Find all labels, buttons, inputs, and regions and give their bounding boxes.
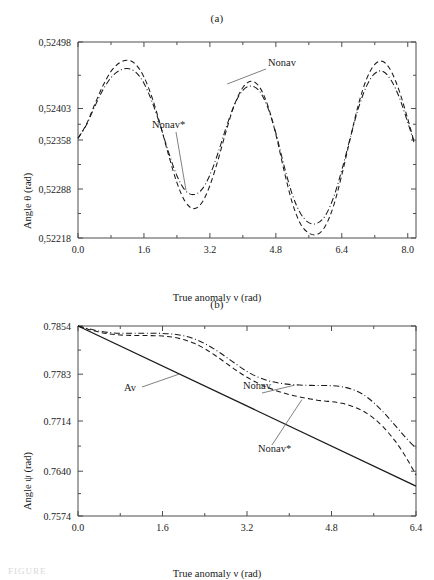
annotation-label-nonav-star: Nonav* [258, 443, 291, 454]
panel-a-annotations: NonavNonav* [152, 57, 297, 190]
series-nonav-star [78, 69, 414, 224]
y-tick-label: 0,52498 [39, 37, 72, 48]
annotation-leader-line [176, 132, 186, 190]
panel-b-x-axis-title: True anomaly ν (rad) [0, 568, 434, 579]
x-tick-label: 0.0 [72, 244, 85, 255]
annotation-label-nonav-star: Nonav* [152, 119, 185, 130]
panel-b-annotations: AvNonavNonav* [124, 374, 302, 454]
panel-a: (a) Angle θ (rad) 0,522180,522880,523580… [0, 0, 434, 290]
annotation-leader-line [142, 374, 179, 387]
annotation-label-nonav: Nonav [243, 380, 272, 391]
y-tick-label: 0,52218 [39, 233, 72, 244]
panel-a-plot-area: Angle θ (rad) 0,522180,522880,523580,524… [0, 24, 434, 274]
figure-page: (a) Angle θ (rad) 0,522180,522880,523580… [0, 0, 434, 580]
panel-b-series [78, 326, 416, 486]
y-tick-label: 0.7574 [44, 511, 72, 522]
panel-b-label: (b) [0, 290, 434, 310]
x-tick-label: 6.4 [336, 244, 349, 255]
panel-b: (b) Angle ψ (rad) 0.75740.76400.77140.77… [0, 290, 434, 580]
annotation-label-av: Av [124, 382, 137, 393]
figure-caption-fragment: FIGURE [8, 566, 47, 576]
x-tick-label: 1.6 [156, 522, 169, 533]
panel-b-chart: 0.75740.76400.77140.77830.78540.01.63.24… [0, 310, 434, 550]
panel-a-axes [78, 42, 416, 238]
panel-a-series [78, 60, 414, 235]
panel-b-axes [78, 326, 416, 516]
series-nonav-star [78, 326, 416, 475]
series-nonav [78, 60, 414, 235]
annotation-label-nonav: Nonav [268, 57, 297, 68]
x-tick-label: 6.4 [410, 522, 423, 533]
x-tick-label: 0.0 [72, 522, 85, 533]
x-tick-label: 4.8 [270, 244, 283, 255]
y-tick-label: 0.7783 [44, 369, 72, 380]
panel-b-plot-area: Angle ψ (rad) 0.75740.76400.77140.77830.… [0, 310, 434, 550]
y-tick-label: 0.7714 [44, 416, 72, 427]
y-tick-label: 0.7854 [44, 321, 72, 332]
x-tick-label: 3.2 [204, 244, 217, 255]
y-tick-label: 0.7640 [44, 466, 72, 477]
y-tick-label: 0,52288 [39, 184, 72, 195]
y-tick-label: 0,52358 [39, 135, 72, 146]
panel-a-label: (a) [0, 0, 434, 24]
series-av [78, 326, 416, 486]
x-tick-label: 8.0 [402, 244, 415, 255]
x-tick-label: 1.6 [138, 244, 151, 255]
panel-a-ticks: 0,522180,522880,523580,524030,524980.01.… [39, 37, 417, 255]
annotation-leader-line [272, 400, 302, 445]
x-tick-label: 3.2 [241, 522, 254, 533]
x-tick-label: 4.8 [325, 522, 338, 533]
y-tick-label: 0,52403 [39, 103, 72, 114]
annotation-leader-line [227, 69, 266, 84]
panel-a-y-axis-title: Angle θ (rad) [22, 173, 33, 229]
panel-b-y-axis-title: Angle ψ (rad) [22, 452, 33, 510]
panel-b-ticks: 0.75740.76400.77140.77830.78540.01.63.24… [44, 321, 423, 533]
panel-a-chart: 0,522180,522880,523580,524030,524980.01.… [0, 24, 434, 274]
